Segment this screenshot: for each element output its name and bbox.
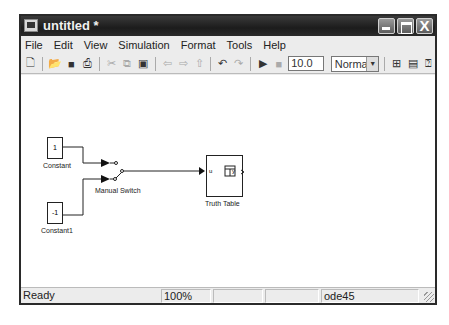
solver-name: ode45 bbox=[321, 289, 419, 303]
toolbar-separator bbox=[210, 57, 211, 71]
save-icon[interactable]: ■ bbox=[65, 57, 78, 71]
library-browser-icon[interactable]: ▤ bbox=[406, 57, 419, 71]
status-cell-4 bbox=[265, 289, 319, 303]
chevron-down-icon[interactable]: ▼ bbox=[366, 57, 378, 71]
toolbar-separator bbox=[250, 57, 251, 71]
stop-time-input[interactable]: 10.0 bbox=[288, 56, 323, 71]
model-explorer-icon[interactable]: ⍰ bbox=[422, 57, 435, 71]
menu-file[interactable]: File bbox=[25, 39, 43, 51]
constant-value: 1 bbox=[48, 144, 62, 151]
menu-edit[interactable]: Edit bbox=[54, 39, 73, 51]
undo-icon[interactable]: ↶ bbox=[216, 57, 229, 71]
start-icon[interactable]: ▶ bbox=[256, 57, 269, 71]
close-icon: X bbox=[417, 17, 432, 34]
copy-icon[interactable]: ⧉ bbox=[121, 57, 134, 71]
simulation-mode-select[interactable]: Normal ▼ bbox=[331, 56, 380, 72]
menu-bar: File Edit View Simulation Format Tools H… bbox=[21, 36, 435, 54]
back-icon[interactable]: ⇦ bbox=[161, 57, 174, 71]
paste-icon[interactable]: ▣ bbox=[137, 57, 150, 71]
toolbar-separator bbox=[42, 57, 43, 71]
constant-block[interactable]: 1 bbox=[47, 137, 63, 159]
constant1-label: Constant1 bbox=[41, 227, 73, 234]
maximize-button[interactable] bbox=[397, 18, 414, 34]
window-title: untitled * bbox=[43, 18, 99, 33]
truth-table-in-port: u bbox=[209, 168, 212, 174]
constant1-block[interactable]: -1 bbox=[47, 202, 63, 224]
truth-table-out-port: y bbox=[232, 168, 235, 174]
simulink-model-icon bbox=[24, 19, 38, 32]
up-icon[interactable]: ⇧ bbox=[193, 57, 206, 71]
cut-icon[interactable]: ✂ bbox=[105, 57, 118, 71]
minimize-button[interactable] bbox=[378, 18, 395, 34]
title-bar[interactable]: untitled * X bbox=[21, 16, 435, 36]
zoom-level: 100% bbox=[161, 289, 211, 303]
status-cell-3 bbox=[213, 289, 263, 303]
toolbar-separator bbox=[384, 57, 385, 71]
menu-help[interactable]: Help bbox=[263, 39, 286, 51]
menu-simulation[interactable]: Simulation bbox=[118, 39, 169, 51]
constant1-value: -1 bbox=[48, 209, 62, 216]
simulation-mode-value: Normal bbox=[335, 58, 370, 70]
stop-icon[interactable]: ■ bbox=[272, 57, 285, 71]
status-bar: Ready 100% ode45 bbox=[21, 287, 435, 303]
new-icon[interactable]: 🗋 bbox=[24, 57, 37, 71]
truth-table-block[interactable]: u y bbox=[206, 155, 243, 197]
open-icon[interactable]: 📂 bbox=[48, 57, 62, 71]
toolbar-separator bbox=[155, 57, 156, 71]
redo-icon[interactable]: ↷ bbox=[232, 57, 245, 71]
menu-tools[interactable]: Tools bbox=[227, 39, 253, 51]
constant-label: Constant bbox=[43, 162, 71, 169]
toolbar: 🗋 📂 ■ ⎙ ✂ ⧉ ▣ ⇦ ⇨ ⇧ ↶ ↷ ▶ ■ 10.0 Normal … bbox=[21, 54, 435, 74]
resize-grip-icon[interactable] bbox=[424, 292, 434, 302]
truth-table-label: Truth Table bbox=[205, 200, 240, 207]
manual-switch-label: Manual Switch bbox=[95, 187, 141, 194]
build-icon[interactable]: ⊞ bbox=[390, 57, 403, 71]
model-canvas[interactable]: 1 Constant -1 Constant1 Manual Switch u … bbox=[21, 75, 435, 289]
toolbar-separator bbox=[99, 57, 100, 71]
print-icon[interactable]: ⎙ bbox=[81, 57, 94, 71]
menu-view[interactable]: View bbox=[84, 39, 108, 51]
close-button[interactable]: X bbox=[416, 18, 433, 34]
menu-format[interactable]: Format bbox=[181, 39, 216, 51]
status-text: Ready bbox=[21, 289, 161, 303]
simulink-model-window: untitled * X File Edit View Simulation F… bbox=[19, 14, 437, 305]
forward-icon[interactable]: ⇨ bbox=[177, 57, 190, 71]
